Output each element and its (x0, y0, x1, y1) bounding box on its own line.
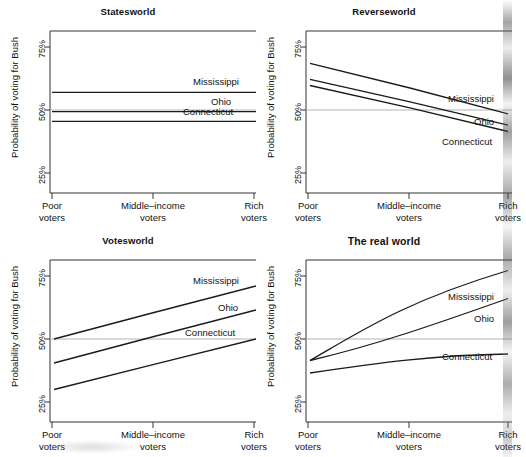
series-label-mississippi: Mississippi (193, 76, 239, 87)
panel-reverseworld: Reverseworld Probability of voting for B… (256, 0, 512, 228)
x-tick-middle: Middle–income voters (108, 200, 198, 224)
series-label-ohio: Ohio (474, 313, 494, 324)
panel-the-real-world: The real world Probability of voting for… (256, 229, 512, 457)
plot-area (256, 0, 512, 228)
x-tick-poor: Poor voters (278, 200, 338, 224)
series-label-ohio: Ohio (474, 116, 494, 127)
x-tick-poor: Poor voters (22, 200, 82, 224)
x-tick-poor: Poor voters (278, 429, 338, 453)
series-label-connecticut: Connecticut (442, 136, 492, 147)
series-label-mississippi: Mississippi (448, 93, 494, 104)
x-tick-poor-line2: voters (39, 441, 65, 452)
plot-area (0, 229, 256, 457)
x-tick-poor-line1: Poor (298, 200, 318, 211)
x-tick-middle-line1: Middle–income (377, 200, 441, 211)
x-tick-rich-line1: Rich (498, 429, 517, 440)
x-tick-rich: Rich voters (478, 429, 526, 453)
x-tick-poor-line2: voters (295, 212, 321, 223)
x-tick-rich: Rich voters (478, 200, 526, 224)
x-tick-poor: Poor voters (22, 429, 82, 453)
x-tick-middle: Middle–income voters (364, 429, 454, 453)
series-label-connecticut: Connecticut (183, 106, 233, 117)
series-label-mississippi: Mississippi (448, 291, 494, 302)
x-tick-poor-line1: Poor (42, 429, 62, 440)
x-tick-middle: Middle–income voters (108, 429, 198, 453)
panel-votesworld: Votesworld Probability of voting for Bus… (0, 229, 256, 457)
x-tick-rich-line2: voters (495, 441, 521, 452)
x-tick-poor-line2: voters (295, 441, 321, 452)
plot-area (256, 229, 512, 457)
x-tick-middle-line1: Middle–income (121, 429, 185, 440)
series-label-connecticut: Connecticut (442, 351, 492, 362)
series-label-ohio: Ohio (218, 302, 238, 313)
panel-statesworld: Statesworld Probability of voting for Bu… (0, 0, 256, 228)
x-tick-rich-line1: Rich (498, 200, 517, 211)
x-tick-rich-line2: voters (495, 212, 521, 223)
x-tick-middle-line1: Middle–income (121, 200, 185, 211)
x-tick-poor-line1: Poor (298, 429, 318, 440)
x-tick-middle-line1: Middle–income (377, 429, 441, 440)
x-tick-middle-line2: voters (396, 441, 422, 452)
x-tick-middle-line2: voters (396, 212, 422, 223)
series-label-mississippi: Mississippi (193, 275, 239, 286)
x-tick-middle-line2: voters (140, 441, 166, 452)
series-label-connecticut: Connecticut (185, 327, 235, 338)
x-tick-poor-line2: voters (39, 212, 65, 223)
x-tick-middle: Middle–income voters (364, 200, 454, 224)
x-tick-middle-line2: voters (140, 212, 166, 223)
x-tick-poor-line1: Poor (42, 200, 62, 211)
